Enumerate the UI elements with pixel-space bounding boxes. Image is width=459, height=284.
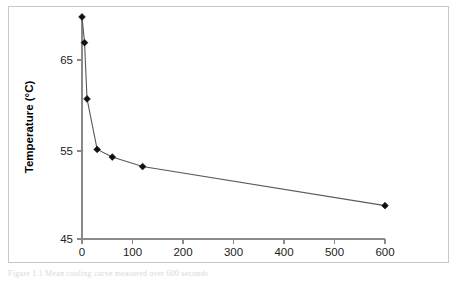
y-tick-marks [77,60,82,239]
x-tick-label-500: 500 [325,246,344,258]
series-markers [79,14,389,210]
data-point [109,154,116,161]
x-tick-marks [82,239,385,244]
data-point [84,95,91,102]
y-tick-label-45: 45 [60,233,73,245]
figure-frame: 65 55 45 0 100 200 300 400 500 600 Tempe… [8,6,449,263]
figure-caption-text: Figure 1.1 Mean cooling curve measured o… [8,268,449,279]
series-line [82,17,385,206]
data-point [382,202,389,209]
x-tick-label-400: 400 [274,246,293,258]
y-axis-title: Temperature (°C) [23,81,35,174]
x-tick-label-100: 100 [123,246,142,258]
x-tick-label-600: 600 [375,246,394,258]
line-chart: 65 55 45 0 100 200 300 400 500 600 Tempe… [9,7,450,264]
y-tick-label-65: 65 [60,54,73,66]
x-axis-title: Time (Seconds) [190,263,276,264]
y-tick-label-55: 55 [60,145,73,157]
figure-caption: Figure 1.1 Mean cooling curve measured o… [8,268,449,282]
data-point [139,163,146,170]
data-point [94,146,101,153]
x-tick-label-300: 300 [224,246,243,258]
data-point [79,14,86,21]
x-tick-label-200: 200 [173,246,192,258]
x-tick-label-0: 0 [79,246,85,258]
